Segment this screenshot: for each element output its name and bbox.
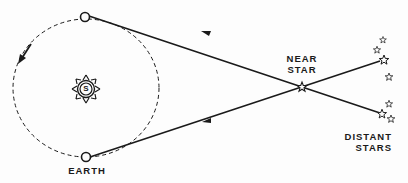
parallax-diagram: S EARTH NEAR STAR DISTANT STARS: [0, 0, 408, 183]
near-star-label-line1: NEAR: [280, 54, 324, 64]
diagram-canvas: [0, 0, 408, 183]
near-star-icon: [297, 82, 307, 91]
earth-top-icon: [81, 13, 90, 22]
earth-bottom-icon: [82, 153, 91, 162]
near-star-label-line2: STAR: [280, 65, 324, 75]
orbit-direction-arrow-icon: [18, 44, 31, 64]
distant-stars-icon: [373, 37, 394, 123]
sightline-to-earth-top: [89, 16, 380, 113]
distant-stars-label-line1: DISTANT: [330, 132, 392, 142]
arrowhead-icon: [201, 31, 211, 36]
distant-stars-label-line2: STARS: [330, 143, 392, 153]
earth-label: EARTH: [62, 166, 112, 176]
sun-label: S: [80, 84, 92, 94]
